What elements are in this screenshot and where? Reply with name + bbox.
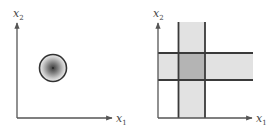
circle-center-dot xyxy=(52,67,54,69)
left-y-axis-label: x2 xyxy=(13,7,24,22)
right-panel: x2 x1 xyxy=(153,7,267,127)
overlap-region xyxy=(178,53,205,80)
right-x-axis-label: x1 xyxy=(256,112,267,127)
left-panel: x2 x1 xyxy=(13,7,127,127)
diagram-figure: x2 x1 x2 x1 xyxy=(0,0,274,129)
right-y-axis-label: x2 xyxy=(153,7,164,22)
left-x-axis-label: x1 xyxy=(116,112,127,127)
